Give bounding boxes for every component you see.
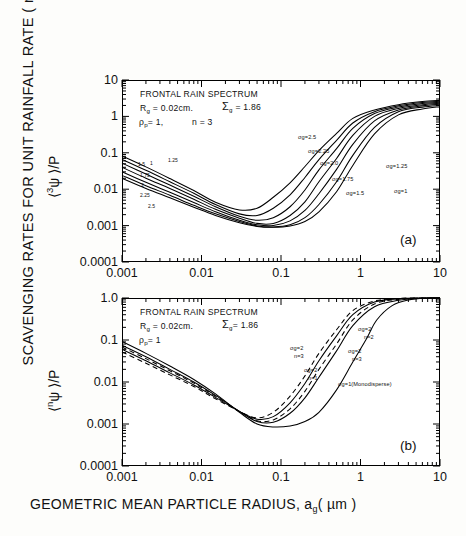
curve--g-2-n-1: [122, 298, 440, 423]
curve--g-2-n-3-dashed: [122, 298, 440, 418]
panel-b-curves: [0, 0, 466, 536]
curve--g-2-n-3: [122, 298, 440, 420]
panel-b-tick-marks: [122, 298, 440, 466]
curve--g-2-n-2: [122, 298, 440, 422]
panel-b-series-paths: [122, 298, 440, 427]
curve--g-1-monodisperse-: [122, 298, 440, 427]
